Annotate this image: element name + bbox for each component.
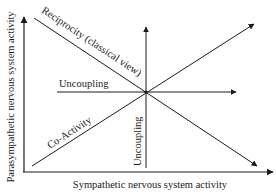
reciprocity-label: Reciprocity (classical view) bbox=[39, 4, 144, 79]
coactivity-label: Co-Activity bbox=[45, 114, 94, 151]
axes bbox=[23, 17, 273, 172]
uncoupling-vertical-label: Uncoupling bbox=[132, 116, 143, 166]
y-axis-label: Parasympathetic nervous system activity bbox=[5, 11, 16, 183]
x-axis-label: Sympathetic nervous system activity bbox=[73, 179, 228, 190]
uncoupling-horizontal-label: Uncoupling bbox=[59, 78, 109, 89]
coactivity-line bbox=[32, 24, 254, 166]
diagram-canvas: Reciprocity (classical view) Co-Activity… bbox=[0, 0, 276, 195]
intersection-point bbox=[144, 90, 147, 93]
